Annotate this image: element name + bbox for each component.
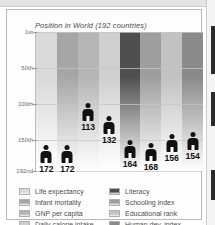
person-head-icon <box>44 145 49 150</box>
person-body-icon <box>145 149 156 161</box>
legend-item[interactable]: Daily calorie intake <box>19 219 109 225</box>
person-head-icon <box>86 103 91 108</box>
legend-item[interactable]: Literacy <box>109 186 199 197</box>
legend-label: Schooling index <box>125 199 174 206</box>
chart-card: Position in World (192 countries) 1st50t… <box>6 9 202 220</box>
legend-label: Daily calorie intake <box>35 221 94 225</box>
legend-item[interactable]: Life expectancy <box>19 186 109 197</box>
person-body-icon <box>104 122 115 134</box>
y-axis-tick-label: 150th <box>18 137 33 143</box>
legend-swatch <box>109 188 120 195</box>
data-value-label: 172 <box>60 164 74 174</box>
legend-item[interactable]: Educational rank <box>109 208 199 219</box>
plot-area: 1st50th100th150th192nd 17217211313216416… <box>36 32 203 171</box>
y-axis-tick-mark <box>33 140 37 141</box>
person-body-icon <box>83 109 94 121</box>
legend-label: Literacy <box>125 188 150 195</box>
gridline <box>36 104 203 105</box>
chart-title: Position in World (192 countries) <box>35 21 147 30</box>
y-axis-tick-mark <box>33 171 37 172</box>
y-axis-tick-mark <box>33 104 37 105</box>
legend: Life expectancyInfant mortalityGNP per c… <box>19 186 199 225</box>
person-body-icon <box>62 151 73 163</box>
data-value-label: 132 <box>102 135 116 145</box>
person-marker: 164 <box>123 140 136 158</box>
legend-swatch <box>109 199 120 206</box>
data-value-label: 113 <box>81 122 95 132</box>
data-value-label: 168 <box>144 162 158 172</box>
y-axis-tick-mark <box>33 32 37 33</box>
gridline <box>36 32 203 33</box>
person-head-icon <box>65 145 70 150</box>
person-head-icon <box>127 140 132 145</box>
y-axis-tick-label: 192nd <box>16 168 33 174</box>
sliver-mark-bottom <box>211 170 215 200</box>
person-marker: 172 <box>40 145 53 163</box>
y-axis-tick-label: 1st <box>25 29 33 35</box>
sliver-mark-mid <box>211 92 215 126</box>
legend-swatch <box>109 221 120 225</box>
top-band-divider <box>0 6 215 7</box>
data-value-label: 172 <box>39 164 53 174</box>
adjacent-panel-sliver <box>206 0 215 225</box>
legend-swatch <box>19 210 30 217</box>
legend-swatch <box>19 221 30 225</box>
legend-column-left: Life expectancyInfant mortalityGNP per c… <box>19 186 109 225</box>
legend-label: Educational rank <box>125 210 177 217</box>
column-band <box>78 32 99 171</box>
y-axis-tick-mark <box>33 68 37 69</box>
data-value-label: 154 <box>185 151 199 161</box>
legend-label: GNP per capita <box>35 210 83 217</box>
column-band <box>99 32 120 171</box>
data-value-label: 164 <box>123 159 137 169</box>
person-head-icon <box>169 134 174 139</box>
legend-swatch <box>109 210 120 217</box>
person-marker: 172 <box>61 145 74 163</box>
legend-swatch <box>19 188 30 195</box>
y-axis-tick-label: 100th <box>18 101 33 107</box>
legend-swatch <box>19 199 30 206</box>
person-marker: 113 <box>82 103 95 121</box>
person-head-icon <box>190 132 195 137</box>
sliver-mark-top <box>211 26 215 74</box>
person-body-icon <box>124 146 135 158</box>
data-value-label: 156 <box>165 153 179 163</box>
person-body-icon <box>41 151 52 163</box>
person-head-icon <box>107 116 112 121</box>
person-head-icon <box>148 143 153 148</box>
legend-column-right: LiteracySchooling indexEducational rankH… <box>109 186 199 225</box>
legend-label: Infant mortality <box>35 199 81 206</box>
legend-label: Life expectancy <box>35 188 84 195</box>
person-body-icon <box>166 140 177 152</box>
chart-screenshot: Position in World (192 countries) 1st50t… <box>0 0 215 225</box>
y-axis-line <box>35 32 36 171</box>
gridline <box>36 68 203 69</box>
legend-label: Human dev. index <box>125 221 181 225</box>
legend-item[interactable]: Infant mortality <box>19 197 109 208</box>
legend-item[interactable]: Human dev. index <box>109 219 199 225</box>
person-body-icon <box>187 138 198 150</box>
legend-item[interactable]: Schooling index <box>109 197 199 208</box>
person-marker: 156 <box>165 134 178 152</box>
y-axis-tick-label: 50th <box>21 65 33 71</box>
legend-item[interactable]: GNP per capita <box>19 208 109 219</box>
person-marker: 168 <box>144 143 157 161</box>
person-marker: 132 <box>103 116 116 134</box>
person-marker: 154 <box>186 132 199 150</box>
